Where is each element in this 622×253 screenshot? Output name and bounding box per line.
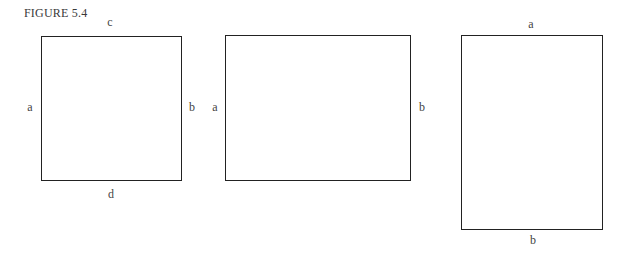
square-label-right: b	[189, 101, 195, 113]
square-shape	[41, 36, 182, 181]
portrait-label-top: a	[528, 18, 533, 30]
landscape-label-right: b	[419, 101, 425, 113]
landscape-label-left: a	[212, 101, 217, 113]
landscape-rectangle-shape	[225, 35, 411, 181]
square-label-bottom: d	[108, 188, 114, 200]
square-label-top: c	[107, 16, 112, 28]
figure-title: FIGURE 5.4	[24, 6, 87, 21]
square-label-left: a	[27, 101, 32, 113]
portrait-rectangle-shape	[461, 35, 603, 230]
portrait-label-bottom: b	[530, 234, 536, 246]
